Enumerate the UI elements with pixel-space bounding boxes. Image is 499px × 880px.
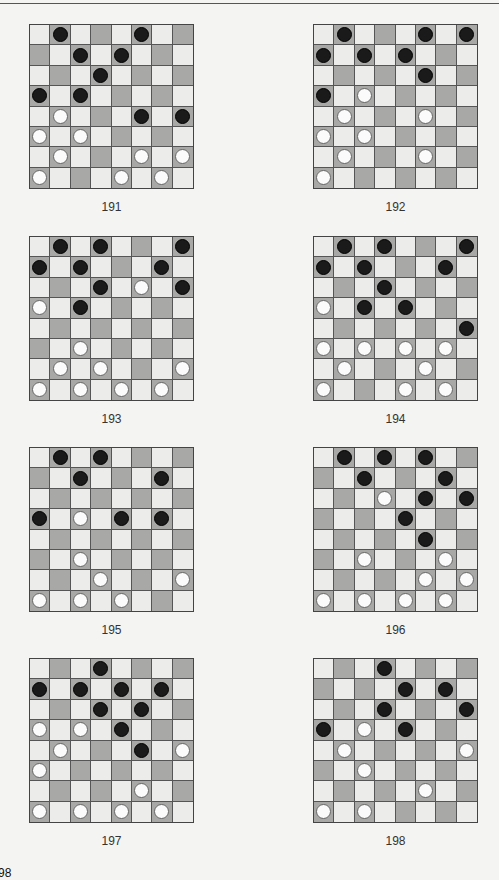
dark-square	[355, 127, 375, 147]
dark-square	[396, 86, 416, 106]
light-square	[50, 550, 70, 570]
light-square	[152, 147, 172, 167]
dark-square	[396, 550, 416, 570]
dark-square	[375, 448, 395, 468]
light-square	[91, 298, 111, 318]
diagram-193: 193	[29, 236, 193, 426]
light-square	[132, 802, 152, 822]
light-square	[334, 339, 354, 359]
black-piece-icon	[459, 491, 474, 506]
light-square	[112, 530, 132, 550]
light-square	[30, 781, 50, 801]
light-square	[71, 570, 91, 590]
black-piece-icon	[398, 48, 413, 63]
light-square	[50, 380, 70, 400]
light-square	[436, 489, 456, 509]
dark-square	[152, 86, 172, 106]
dark-square	[334, 570, 354, 590]
dark-square	[334, 741, 354, 761]
white-piece-icon	[73, 382, 88, 397]
white-piece-icon	[316, 300, 331, 315]
dark-square	[112, 339, 132, 359]
light-square	[173, 127, 193, 147]
light-square	[457, 679, 477, 699]
white-piece-icon	[316, 593, 331, 608]
light-square	[334, 127, 354, 147]
dark-square	[436, 257, 456, 277]
light-square	[355, 530, 375, 550]
dark-square	[173, 66, 193, 86]
white-piece-icon	[73, 552, 88, 567]
white-piece-icon	[316, 804, 331, 819]
light-square	[173, 339, 193, 359]
light-square	[152, 781, 172, 801]
dark-square	[457, 147, 477, 167]
dark-square	[314, 550, 334, 570]
diagram-caption: 193	[29, 412, 194, 426]
dark-square	[457, 359, 477, 379]
light-square	[416, 380, 436, 400]
light-square	[132, 509, 152, 529]
light-square	[436, 570, 456, 590]
dark-square	[334, 25, 354, 45]
black-piece-icon	[418, 68, 433, 83]
dark-square	[436, 339, 456, 359]
dark-square	[355, 720, 375, 740]
black-piece-icon	[114, 682, 129, 697]
light-square	[355, 319, 375, 339]
light-square	[355, 147, 375, 167]
dark-square	[375, 66, 395, 86]
light-square	[50, 168, 70, 188]
light-square	[314, 448, 334, 468]
diagram-192: 192	[313, 24, 477, 214]
black-piece-icon	[154, 471, 169, 486]
light-square	[457, 550, 477, 570]
checkers-board	[313, 24, 478, 189]
black-piece-icon	[418, 27, 433, 42]
light-square	[334, 591, 354, 611]
light-square	[173, 591, 193, 611]
light-square	[132, 550, 152, 570]
dark-square	[132, 25, 152, 45]
light-square	[396, 781, 416, 801]
light-square	[152, 659, 172, 679]
light-square	[50, 591, 70, 611]
dark-square	[173, 781, 193, 801]
dark-square	[91, 107, 111, 127]
dark-square	[375, 700, 395, 720]
dark-square	[173, 448, 193, 468]
white-piece-icon	[337, 149, 352, 164]
white-piece-icon	[357, 88, 372, 103]
white-piece-icon	[53, 361, 68, 376]
light-square	[173, 257, 193, 277]
light-square	[355, 278, 375, 298]
light-square	[152, 25, 172, 45]
dark-square	[355, 468, 375, 488]
light-square	[396, 107, 416, 127]
dark-square	[457, 319, 477, 339]
light-square	[416, 86, 436, 106]
light-square	[71, 700, 91, 720]
dark-square	[375, 741, 395, 761]
dark-square	[314, 45, 334, 65]
dark-square	[416, 448, 436, 468]
light-square	[396, 700, 416, 720]
dark-square	[152, 802, 172, 822]
black-piece-icon	[337, 450, 352, 465]
dark-square	[355, 679, 375, 699]
light-square	[91, 339, 111, 359]
light-square	[50, 509, 70, 529]
dark-square	[30, 591, 50, 611]
light-square	[132, 761, 152, 781]
diagram-caption: 197	[29, 834, 194, 848]
dark-square	[30, 550, 50, 570]
black-piece-icon	[32, 88, 47, 103]
black-piece-icon	[357, 471, 372, 486]
light-square	[173, 802, 193, 822]
dark-square	[132, 278, 152, 298]
light-square	[91, 86, 111, 106]
dark-square	[50, 237, 70, 257]
black-piece-icon	[175, 280, 190, 295]
black-piece-icon	[337, 239, 352, 254]
white-piece-icon	[73, 804, 88, 819]
